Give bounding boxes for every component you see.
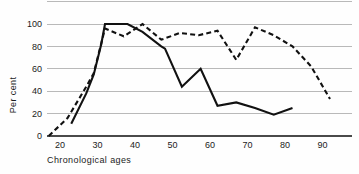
x-tick-label: 90 [317,140,327,150]
gridlines [47,2,352,114]
y-axis-title: Per cent [8,77,18,114]
y-tick-label: 60 [32,64,42,74]
y-tick-label: 40 [32,86,42,96]
x-tick-label: 50 [167,140,177,150]
x-tick-label: 30 [92,140,102,150]
x-tick-label: 70 [242,140,252,150]
x-axis-ticks: 2030405060708090 [55,140,328,150]
y-tick-label: 80 [32,42,42,52]
y-axis-ticks: 020406080100 [27,19,42,141]
x-tick-label: 20 [55,140,65,150]
x-axis-title: Chronological ages [47,155,131,165]
y-tick-label: 100 [27,19,42,29]
y-tick-label: 20 [32,109,42,119]
y-tick-label: 0 [37,131,42,141]
series-solid-line [71,24,292,124]
x-tick-label: 60 [205,140,215,150]
chart-container: 020406080100 2030405060708090 Per cent C… [0,0,359,174]
x-tick-label: 80 [280,140,290,150]
x-tick-label: 40 [130,140,140,150]
line-chart: 020406080100 2030405060708090 Per cent C… [0,0,359,174]
